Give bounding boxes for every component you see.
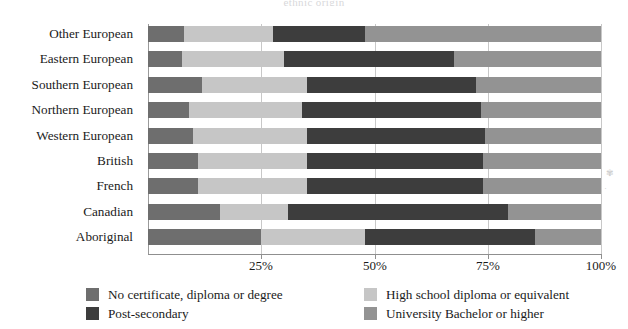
bar-row <box>148 153 601 169</box>
bar-segment <box>148 153 198 169</box>
bar-segment <box>261 229 365 245</box>
bar-segment <box>198 178 307 194</box>
plot-area <box>148 24 601 254</box>
bar-segment <box>454 51 601 67</box>
bar-row <box>148 229 601 245</box>
bar-row <box>148 178 601 194</box>
category-label: Aboriginal <box>0 230 133 244</box>
category-label: Other European <box>0 27 133 41</box>
gridline-100 <box>601 24 602 254</box>
category-label: British <box>0 154 133 168</box>
bar-series-group <box>148 24 601 254</box>
category-label: Southern European <box>0 78 133 92</box>
bar-row <box>148 128 601 144</box>
legend-label: High school diploma or equivalent <box>386 288 569 302</box>
bar-segment <box>307 178 484 194</box>
bar-row <box>148 77 601 93</box>
bar-segment <box>148 102 189 118</box>
bar-row <box>148 51 601 67</box>
legend-item[interactable]: High school diploma or equivalent <box>364 286 569 303</box>
bar-segment <box>535 229 601 245</box>
legend-swatch-icon <box>86 288 99 301</box>
bar-segment <box>148 204 220 220</box>
bar-segment <box>508 204 601 220</box>
legend-swatch-icon <box>364 307 377 320</box>
legend-swatch-icon <box>364 288 377 301</box>
scan-artifact: · <box>604 183 607 193</box>
bar-segment <box>307 128 486 144</box>
x-axis-ticks: 25%50%75%100% <box>148 255 601 273</box>
bar-segment <box>184 26 272 42</box>
bar-segment <box>307 153 484 169</box>
legend-item[interactable]: No certificate, diploma or degree <box>86 286 283 303</box>
category-label: Northern European <box>0 103 133 117</box>
chart-legend: No certificate, diploma or degreeHigh sc… <box>86 286 606 324</box>
x-tick-label: 25% <box>249 258 273 274</box>
x-tick-label: 50% <box>363 258 387 274</box>
bar-segment <box>148 26 184 42</box>
category-label: Western European <box>0 129 133 143</box>
bar-segment <box>148 229 261 245</box>
category-label: Eastern European <box>0 52 133 66</box>
bar-row <box>148 26 601 42</box>
category-label: Canadian <box>0 205 133 219</box>
bar-segment <box>284 51 454 67</box>
legend-item[interactable]: Post-secondary <box>86 305 189 322</box>
bar-segment <box>365 229 535 245</box>
bar-row <box>148 102 601 118</box>
category-axis-labels: Other EuropeanEastern EuropeanSouthern E… <box>0 24 140 254</box>
legend-label: No certificate, diploma or degree <box>108 288 283 302</box>
bar-segment <box>202 77 306 93</box>
legend-swatch-icon <box>86 307 99 320</box>
legend-item[interactable]: University Bachelor or higher <box>364 305 544 322</box>
bar-segment <box>148 128 193 144</box>
bar-segment <box>193 128 306 144</box>
bar-segment <box>365 26 601 42</box>
bar-segment <box>189 102 302 118</box>
bar-segment <box>198 153 307 169</box>
bar-segment <box>288 204 508 220</box>
bar-segment <box>485 128 601 144</box>
x-tick-label: 75% <box>476 258 500 274</box>
bar-row <box>148 204 601 220</box>
bar-segment <box>483 178 601 194</box>
bar-segment <box>307 77 477 93</box>
bar-segment <box>481 102 601 118</box>
x-tick-label: 100% <box>586 258 616 274</box>
bar-segment <box>182 51 284 67</box>
scan-artifact: ✾ <box>606 168 614 178</box>
stacked-bar-chart-figure: ethnic origin Other EuropeanEastern Euro… <box>0 0 628 329</box>
legend-label: Post-secondary <box>108 307 189 321</box>
bar-segment <box>483 153 601 169</box>
bar-segment <box>148 178 198 194</box>
bar-segment <box>302 102 481 118</box>
bar-segment <box>148 77 202 93</box>
bar-segment <box>476 77 601 93</box>
bar-segment <box>148 51 182 67</box>
bar-segment <box>273 26 366 42</box>
bar-segment <box>220 204 288 220</box>
category-label: French <box>0 179 133 193</box>
legend-label: University Bachelor or higher <box>386 307 544 321</box>
chart-title: ethnic origin <box>0 0 628 6</box>
